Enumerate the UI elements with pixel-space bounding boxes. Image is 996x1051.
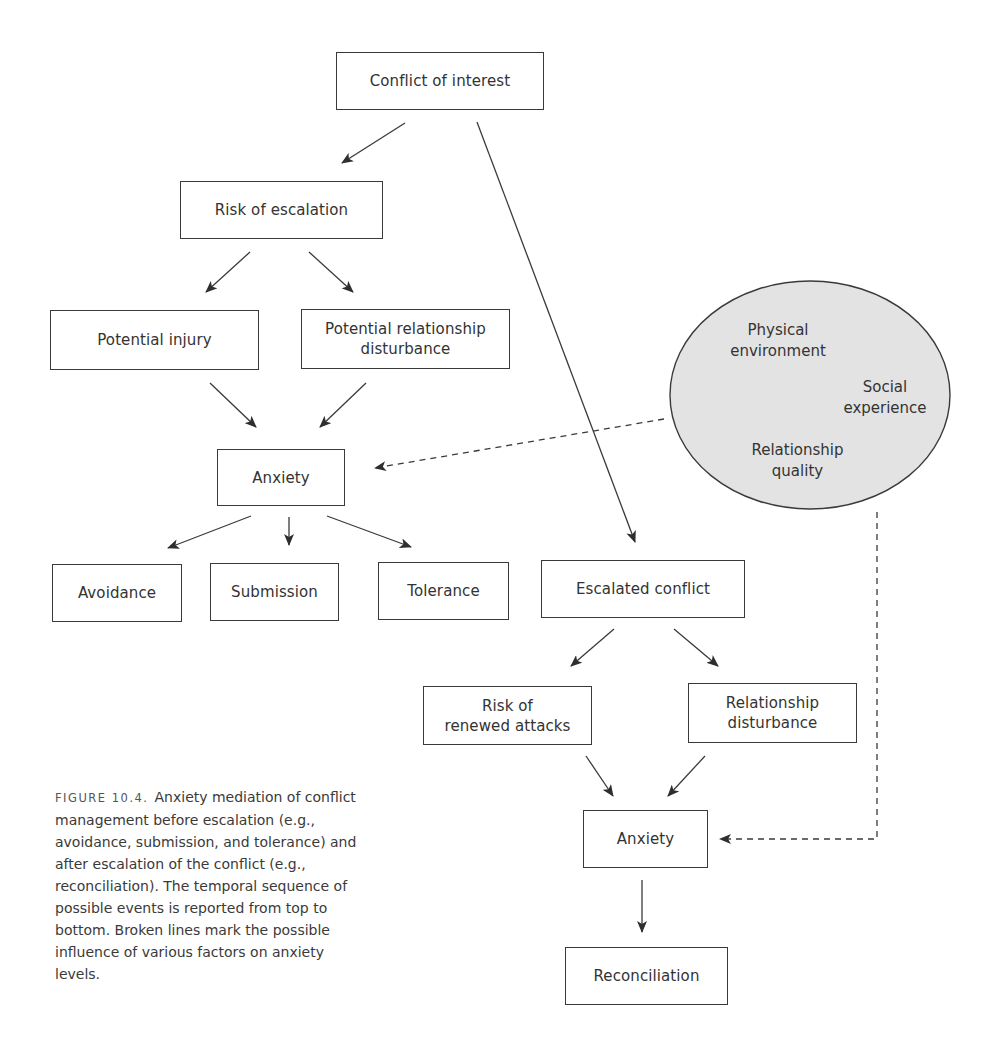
node-risk-of-renewed-attacks: Risk of renewed attacks [423, 686, 592, 745]
node-tolerance: Tolerance [378, 562, 509, 620]
arrow-escalated-to-disturbance [674, 629, 718, 666]
node-potential-relationship-disturbance: Potential relationship disturbance [301, 309, 510, 369]
node-potential-injury: Potential injury [50, 310, 259, 370]
arrow-renewed-to-anxiety [586, 756, 613, 796]
arrow-conflict-to-risk [342, 123, 405, 163]
arrow-relationship-to-anxiety [320, 383, 366, 427]
node-relationship-disturbance: Relationship disturbance [688, 683, 857, 743]
node-risk-of-escalation: Risk of escalation [180, 181, 383, 239]
factor-social-experience: Social experience [830, 377, 940, 419]
figure-caption: FIGURE 10.4.Anxiety mediation of conflic… [55, 786, 360, 985]
factor-physical-environment: Physical environment [718, 320, 838, 362]
dashed-arrow-factors-to-anxiety-pre [375, 419, 664, 468]
caption-text: Anxiety mediation of conflict management… [55, 789, 356, 982]
node-escalated-conflict: Escalated conflict [541, 560, 745, 618]
arrow-anxiety-to-tolerance [327, 516, 411, 547]
figure-label: FIGURE 10.4. [55, 791, 149, 805]
arrow-risk-to-injury [206, 252, 250, 292]
node-anxiety-post: Anxiety [583, 810, 708, 868]
arrow-risk-to-relationship [309, 252, 353, 292]
arrow-anxiety-to-avoidance [168, 516, 251, 548]
arrow-escalated-to-renewed [571, 629, 614, 666]
node-reconciliation: Reconciliation [565, 947, 728, 1005]
arrow-disturbance-to-anxiety [668, 756, 705, 796]
node-submission: Submission [210, 563, 339, 621]
node-anxiety-pre: Anxiety [217, 449, 345, 506]
node-avoidance: Avoidance [52, 564, 182, 622]
factor-relationship-quality: Relationship quality [735, 440, 860, 482]
diagram-canvas: Conflict of interest Risk of escalation … [0, 0, 996, 1051]
node-conflict-of-interest: Conflict of interest [336, 52, 544, 110]
arrow-injury-to-anxiety [210, 383, 256, 427]
